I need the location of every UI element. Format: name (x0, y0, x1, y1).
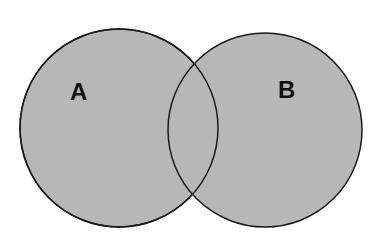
venn-svg: A B (0, 0, 383, 249)
set-a-label: A (70, 78, 87, 105)
venn-diagram: A B (0, 0, 383, 249)
set-b-label: B (278, 76, 295, 103)
set-b-circle (168, 33, 362, 227)
